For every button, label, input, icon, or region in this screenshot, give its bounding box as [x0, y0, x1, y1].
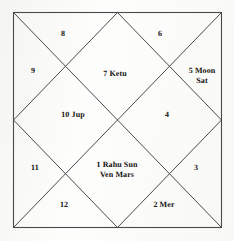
house-2-label: 2 Mer	[139, 200, 189, 210]
house-10-label: 10 Jup	[38, 110, 108, 120]
house-3-label: 3	[181, 163, 211, 173]
vedic-birth-chart: 1 Rahu Sun Ven Mars 2 Mer 3 4 5 Moon Sat…	[0, 0, 234, 241]
house-8-label: 8	[48, 29, 78, 39]
house-11-label: 11	[20, 163, 50, 173]
house-12-label: 12	[49, 200, 79, 210]
house-4-label: 4	[152, 110, 182, 120]
house-7-label: 7 Ketu	[80, 69, 150, 79]
house-6-label: 6	[145, 29, 175, 39]
house-9-label: 9	[18, 66, 48, 76]
house-1-label: 1 Rahu Sun Ven Mars	[78, 160, 156, 180]
house-5-label: 5 Moon Sat	[178, 66, 226, 86]
chart-grid-svg	[0, 0, 234, 241]
